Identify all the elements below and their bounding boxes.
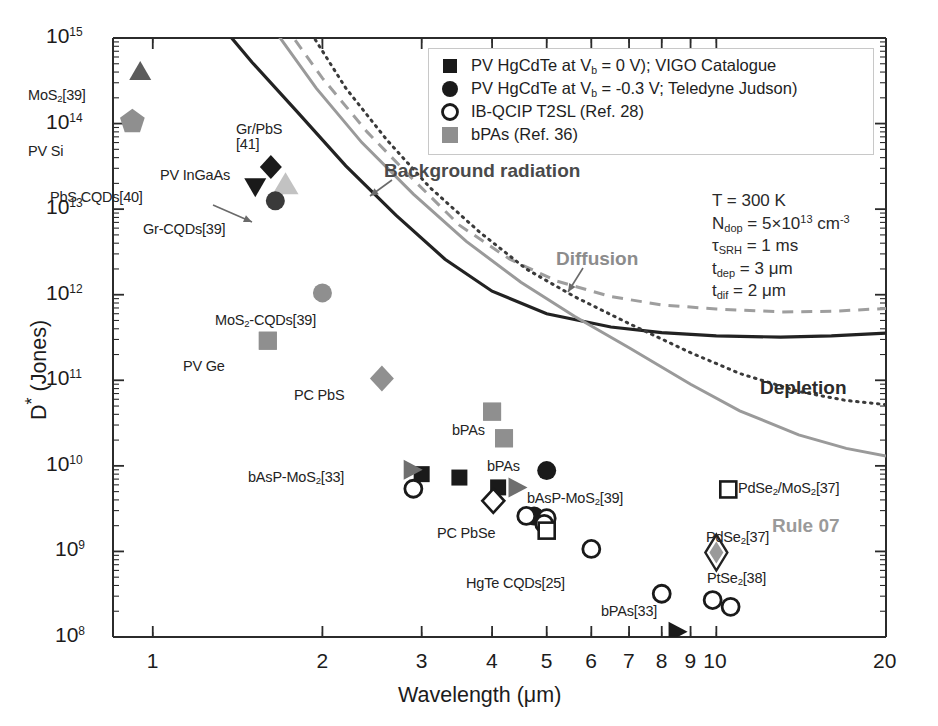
data-point-marker: [495, 429, 513, 447]
data-point-marker: [722, 598, 739, 615]
data-point-marker: [451, 470, 467, 486]
x-tick-label: 10: [703, 649, 726, 673]
point-label: bPAs[33]: [601, 604, 657, 619]
data-point-marker: [720, 481, 736, 497]
figure-root: 1234567891020 10810910101011101210131014…: [0, 0, 938, 726]
data-point-marker: [669, 622, 688, 642]
data-point-marker: [273, 172, 299, 194]
x-tick-label: 2: [316, 649, 328, 673]
y-axis-title: D* (Jones): [22, 320, 52, 420]
y-tick-label: 1015: [46, 24, 83, 48]
point-label: Gr/PbS[41]: [236, 122, 282, 152]
point-label: MoS2[39]: [28, 88, 86, 104]
legend-label: bPAs (Ref. 36): [471, 125, 578, 144]
point-label: PbS CQDs[40]: [50, 190, 143, 205]
curve-label-rule-07: Rule 07: [772, 515, 840, 537]
data-point-marker: [266, 191, 285, 210]
point-label: bPAs: [487, 459, 520, 474]
data-point-marker: [583, 540, 600, 557]
x-tick-label: 20: [873, 649, 896, 673]
x-tick-label: 5: [541, 649, 553, 673]
condition-line: T = 300 K: [712, 190, 850, 212]
curve-label-depletion: Depletion: [760, 377, 847, 399]
legend: PV HgCdTe at Vb = 0 V); VIGO CataloguePV…: [428, 48, 874, 155]
data-point-marker: [120, 109, 145, 133]
x-tick-label: 3: [416, 649, 428, 673]
point-label: bAsP-MoS2[39]: [527, 491, 623, 507]
data-point-marker: [129, 61, 151, 80]
point-label: HgTe CQDs[25]: [466, 576, 565, 591]
point-label: PC PbS: [294, 388, 344, 403]
point-label: Gr-CQDs[39]: [143, 222, 225, 237]
conditions-annotation: T = 300 KNdop = 5×1013 cm-3τSRH = 1 mstd…: [712, 190, 850, 302]
data-point-marker: [313, 283, 332, 302]
data-point-marker: [537, 461, 556, 480]
point-label: PC PbSe: [437, 526, 495, 541]
point-label: MoS2-CQDs[39]: [215, 313, 316, 329]
legend-marker-filled-square-icon: [439, 55, 461, 77]
data-point-marker: [539, 523, 555, 539]
data-point-marker: [483, 403, 501, 421]
data-point-marker: [704, 592, 721, 609]
x-tick-label: 6: [585, 649, 597, 673]
data-point-marker: [405, 480, 422, 497]
legend-marker-open-circle-icon: [439, 101, 461, 123]
curve-label-background-radiation: Background radiation: [384, 160, 580, 182]
condition-line: Ndop = 5×1013 cm-3: [712, 212, 850, 235]
point-label: PV Si: [28, 144, 63, 159]
point-label: PdSe2[37]: [706, 530, 769, 546]
condition-line: tdep = 3 μm: [712, 258, 850, 280]
data-point-marker: [259, 332, 277, 350]
condition-line: tdif = 2 μm: [712, 280, 850, 302]
legend-label: PV HgCdTe at Vb = -0.3 V; Teledyne Judso…: [471, 79, 797, 99]
y-tick-label: 1014: [46, 110, 83, 134]
data-point-marker: [653, 585, 670, 602]
point-label: bPAs: [452, 423, 485, 438]
curve-label-diffusion: Diffusion: [556, 248, 638, 270]
point-label: PtSe2[38]: [707, 571, 766, 587]
y-tick-label: 108: [55, 623, 85, 647]
x-tick-label: 8: [656, 649, 668, 673]
y-tick-label: 1010: [46, 452, 83, 476]
y-tick-label: 1012: [46, 281, 83, 305]
legend-item: IB-QCIP T2SL (Ref. 28): [439, 100, 873, 123]
y-tick-label: 109: [55, 537, 85, 561]
x-tick-label: 1: [147, 649, 159, 673]
point-label: PV Ge: [183, 359, 225, 374]
legend-item: bPAs (Ref. 36): [439, 123, 873, 146]
x-tick-label: 4: [486, 649, 498, 673]
x-tick-label: 7: [623, 649, 635, 673]
legend-label: IB-QCIP T2SL (Ref. 28): [471, 102, 644, 121]
condition-line: τSRH = 1 ms: [712, 235, 850, 257]
legend-item: PV HgCdTe at Vb = 0 V); VIGO Catalogue: [439, 54, 873, 77]
legend-label: PV HgCdTe at Vb = 0 V); VIGO Catalogue: [471, 56, 776, 76]
x-axis-title: Wavelength (μm): [398, 683, 561, 708]
data-point-marker: [509, 477, 528, 497]
data-point-marker: [244, 178, 266, 197]
x-tick-label: 9: [685, 649, 697, 673]
data-point-marker: [260, 155, 282, 179]
point-label: PdSe2/MoS2[37]: [738, 481, 839, 497]
legend-marker-filled-circle-icon: [439, 78, 461, 100]
legend-marker-filled-square-gray-icon: [439, 124, 461, 146]
point-label: PV InGaAs: [160, 168, 230, 183]
point-label: bAsP-MoS2[33]: [248, 470, 344, 486]
data-point-marker: [370, 365, 394, 391]
data-point-marker: [518, 507, 535, 524]
legend-item: PV HgCdTe at Vb = -0.3 V; Teledyne Judso…: [439, 77, 873, 100]
